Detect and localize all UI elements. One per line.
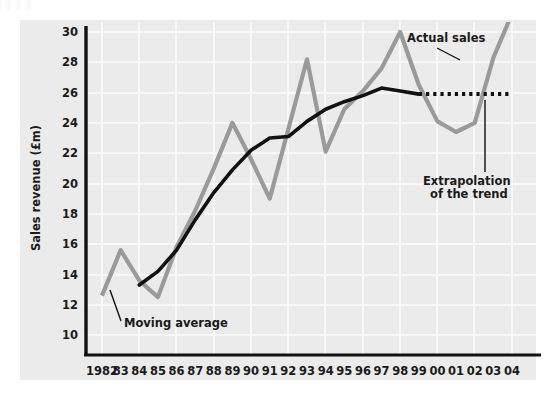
x-tick-03: 03 [485, 364, 501, 378]
x-tick-02: 02 [467, 364, 483, 378]
x-tick-99: 99 [411, 364, 427, 378]
annotation-actual-sales-label: Actual sales [407, 31, 485, 45]
y-tick-30: 30 [62, 25, 78, 39]
annotation-actual-sales-leader [437, 48, 460, 60]
y-tick-20: 20 [62, 177, 78, 191]
y-tick-12: 12 [62, 298, 78, 312]
series-actual-sales-line [102, 14, 512, 297]
series-moving-average-line [139, 88, 419, 285]
x-tick-89: 89 [224, 364, 240, 378]
y-tick-28: 28 [62, 55, 78, 69]
x-tick-01: 01 [448, 364, 464, 378]
x-tick-95: 95 [336, 364, 352, 378]
annotation-extrapolation-label-line1: Extrapolation [423, 174, 511, 188]
annotation-moving-average-label: Moving average [124, 316, 228, 330]
x-tick-83: 83 [113, 364, 129, 378]
x-tick-85: 85 [150, 364, 166, 378]
x-tick-93: 93 [299, 364, 315, 378]
x-tick-86: 86 [169, 364, 185, 378]
y-tick-14: 14 [62, 268, 78, 282]
y-tick-22: 22 [62, 146, 78, 160]
y-tick-10: 10 [62, 328, 78, 342]
x-tick-87: 87 [187, 364, 203, 378]
annotation-extrapolation-label-line2: of the trend [430, 187, 508, 201]
x-tick-98: 98 [392, 364, 408, 378]
figure-canvas: 30 28 26 24 22 20 18 16 14 12 10 Sales r… [0, 0, 555, 401]
y-tick-26: 26 [62, 86, 78, 100]
x-axis-tick-labels: 1982838485868788899091929394959697989900… [86, 364, 520, 378]
x-tick-96: 96 [355, 364, 371, 378]
x-tick-04: 04 [504, 364, 520, 378]
x-tick-94: 94 [318, 364, 334, 378]
x-tick-84: 84 [131, 364, 147, 378]
sales-revenue-line-chart: 30 28 26 24 22 20 18 16 14 12 10 Sales r… [0, 0, 555, 401]
y-tick-16: 16 [62, 237, 78, 251]
x-tick-88: 88 [206, 364, 222, 378]
x-tick-00: 00 [429, 364, 445, 378]
x-tick-90: 90 [243, 364, 259, 378]
annotation-moving-average: Moving average [110, 290, 228, 330]
y-tick-24: 24 [62, 116, 78, 130]
y-axis-title: Sales revenue (£m) [29, 125, 43, 251]
x-tick-91: 91 [262, 364, 278, 378]
y-tick-18: 18 [62, 207, 78, 221]
y-axis-tick-labels: 30 28 26 24 22 20 18 16 14 12 10 [62, 25, 78, 342]
x-tick-92: 92 [280, 364, 296, 378]
x-tick-97: 97 [374, 364, 390, 378]
